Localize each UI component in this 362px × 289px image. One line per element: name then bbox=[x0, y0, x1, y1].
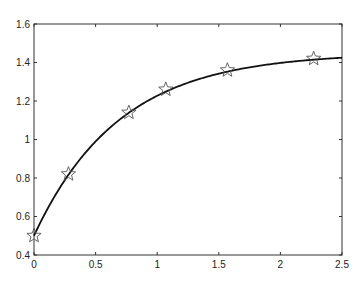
star-marker-icon bbox=[220, 63, 234, 77]
y-tick-label: 1 bbox=[24, 134, 30, 145]
x-tick-label: 0.5 bbox=[89, 259, 103, 270]
y-tick-label: 1.4 bbox=[16, 57, 30, 68]
x-tick-label: 2 bbox=[278, 259, 284, 270]
y-axis-ticks: 0.40.60.811.21.41.6 bbox=[16, 19, 342, 261]
x-tick-label: 2.5 bbox=[335, 259, 349, 270]
fitted-curve bbox=[34, 58, 342, 236]
y-tick-label: 0.4 bbox=[16, 250, 30, 261]
y-tick-label: 1.2 bbox=[16, 96, 30, 107]
x-tick-label: 0 bbox=[31, 259, 37, 270]
data-point-markers bbox=[27, 51, 321, 242]
plot-frame bbox=[34, 24, 342, 255]
y-tick-label: 0.6 bbox=[16, 211, 30, 222]
y-tick-label: 0.8 bbox=[16, 173, 30, 184]
x-tick-label: 1 bbox=[154, 259, 160, 270]
axes-box bbox=[34, 24, 342, 255]
x-tick-label: 1.5 bbox=[212, 259, 226, 270]
y-tick-label: 1.6 bbox=[16, 19, 30, 30]
curve-line bbox=[34, 58, 342, 236]
chart: 0.40.60.811.21.41.6 00.511.522.5 bbox=[0, 0, 362, 289]
star-marker-icon bbox=[307, 51, 321, 65]
